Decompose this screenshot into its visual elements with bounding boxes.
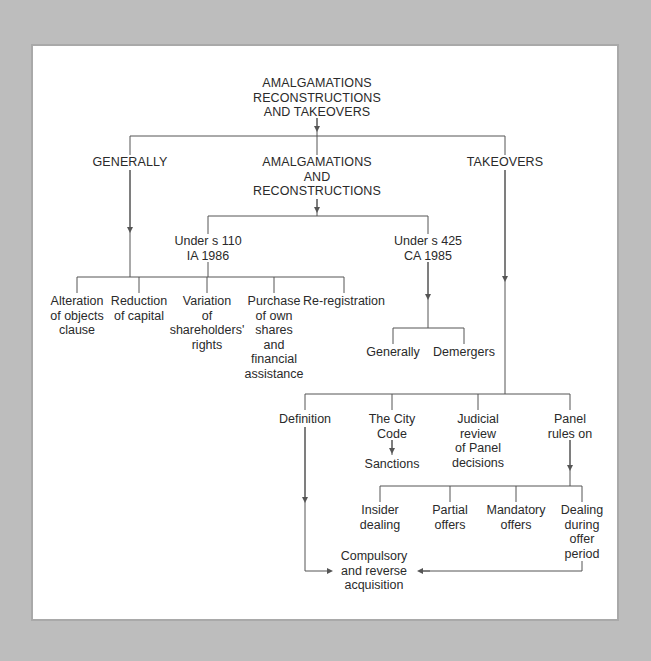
variation-of-rights-node: Variation of shareholders' rights: [170, 294, 245, 352]
compulsory-acquisition-node: Compulsory and reverse acquisition: [341, 549, 408, 593]
partial-offers-node: Partial offers: [432, 503, 467, 532]
takeovers-node: TAKEOVERS: [465, 155, 545, 170]
purchase-of-own-shares-node: Purchase of own shares and financial ass…: [244, 294, 303, 381]
insider-dealing-node: Insider dealing: [360, 503, 400, 532]
mandatory-offers-node: Mandatory offers: [486, 503, 545, 532]
judicial-review-node: Judicial review of Panel decisions: [452, 412, 504, 470]
alteration-of-objects-node: Alteration of objects clause: [50, 294, 104, 338]
root-line-3: AND TAKEOVERS: [253, 105, 381, 120]
reduction-of-capital-node: Reduction of capital: [111, 294, 167, 323]
dealing-during-offer-period-node: Dealing during offer period: [561, 503, 603, 561]
city-code-node: The City Code: [369, 412, 416, 441]
generally-node: GENERALLY: [90, 155, 169, 170]
s425-generally-node: Generally: [366, 345, 420, 360]
definition-node: Definition: [277, 412, 333, 427]
root-line-2: RECONSTRUCTIONS: [253, 91, 381, 106]
amalgamations-reconstructions-node: AMALGAMATIONS AND RECONSTRUCTIONS: [253, 155, 381, 199]
under-s110-node: Under s 110 IA 1986: [174, 234, 241, 263]
root-line-1: AMALGAMATIONS: [253, 76, 381, 91]
sanctions-node: Sanctions: [365, 457, 420, 472]
demergers-node: Demergers: [433, 345, 495, 360]
re-registration-node: Re-registration: [303, 294, 385, 309]
panel-rules-on-node: Panel rules on: [548, 412, 592, 441]
under-s425-node: Under s 425 CA 1985: [394, 234, 462, 263]
root-node: AMALGAMATIONS RECONSTRUCTIONS AND TAKEOV…: [253, 76, 381, 120]
